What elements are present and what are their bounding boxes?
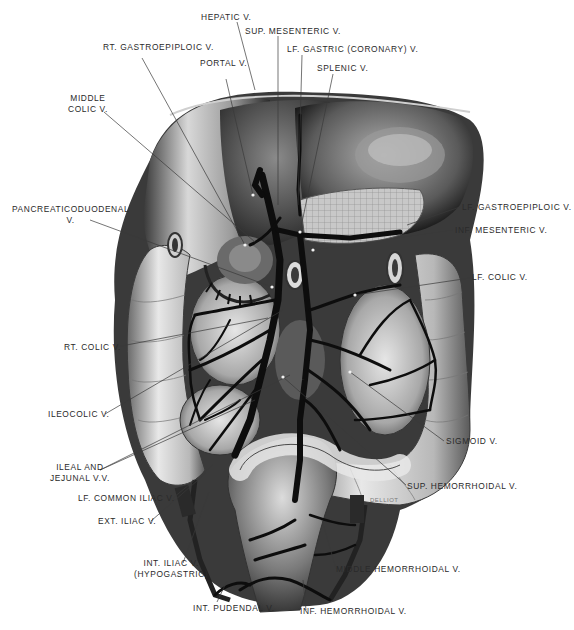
label-lf-gastric-coronary-v: LF. GASTRIC (CORONARY) V. <box>287 44 418 55</box>
label-ext-iliac-v: EXT. ILIAC V. <box>98 516 156 527</box>
label-pancreaticoduodenal-v-line1: PANCREATICODUODENAL <box>12 204 129 215</box>
label-middle-colic-v: MIDDLE COLIC V. <box>68 93 108 115</box>
label-pancreaticoduodenal-v-line2: V. <box>12 215 129 226</box>
label-pancreaticoduodenal-v: PANCREATICODUODENAL V. <box>12 204 129 226</box>
label-middle-colic-v-line1: MIDDLE <box>68 93 108 104</box>
label-lf-common-iliac-v: LF. COMMON ILIAC V. <box>78 493 175 504</box>
label-ileocolic-v: ILEOCOLIC V. <box>48 409 109 420</box>
label-int-iliac-v-line2: (HYPOGASTRIC) <box>134 569 208 580</box>
label-rt-gastroepiploic-v: RT. GASTROEPIPLOIC V. <box>103 42 214 53</box>
label-sup-hemorrhoidal-v: SUP. HEMORRHOIDAL V. <box>407 481 517 492</box>
label-rt-colic-v: RT. COLIC V. <box>64 342 121 353</box>
artist-signature: DELLIOT <box>370 497 399 503</box>
label-lf-gastroepiploic-v: LF. GASTROEPIPLOIC V. <box>462 202 572 213</box>
label-hepatic-v: HEPATIC V. <box>201 12 252 23</box>
label-middle-hemorrhoidal-v: MIDDLE HEMORRHOIDAL V. <box>336 564 461 575</box>
label-int-iliac-v-line1: INT. ILIAC V. <box>134 558 208 569</box>
anatomical-figure: HEPATIC V. SUP. MESENTERIC V. RT. GASTRO… <box>0 0 574 630</box>
label-inf-hemorrhoidal-v: INF. HEMORRHOIDAL V. <box>300 606 407 617</box>
label-ileal-jejunal-vv-line1: ILEAL AND <box>50 462 110 473</box>
label-ileal-jejunal-vv-line2: JEJUNAL V.V. <box>50 473 110 484</box>
label-ileal-jejunal-vv: ILEAL AND JEJUNAL V.V. <box>50 462 110 484</box>
label-portal-v: PORTAL V. <box>200 58 247 69</box>
label-sigmoid-v: SIGMOID V. <box>446 436 498 447</box>
label-int-iliac-v: INT. ILIAC V. (HYPOGASTRIC) <box>134 558 208 580</box>
label-lf-colic-v: LF. COLIC V. <box>472 272 528 283</box>
label-inf-mesenteric-v: INF. MESENTERIC V. <box>455 225 547 236</box>
label-sup-mesenteric-v: SUP. MESENTERIC V. <box>245 26 341 37</box>
label-int-pudendal-v: INT. PUDENDAL V. <box>193 603 275 614</box>
label-splenic-v: SPLENIC V. <box>317 63 368 74</box>
label-middle-colic-v-line2: COLIC V. <box>68 104 108 115</box>
